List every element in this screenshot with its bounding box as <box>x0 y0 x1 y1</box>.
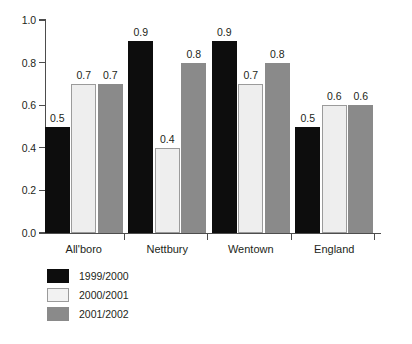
y-axis-tick <box>39 62 46 63</box>
bar-value-label: 0.7 <box>234 70 267 81</box>
bar-chart: 0.00.20.40.60.81.0 0.50.70.70.90.40.80.9… <box>0 0 412 344</box>
legend-label: 2001/2002 <box>79 308 129 320</box>
bar-value-label: 0.6 <box>344 91 377 102</box>
bar-value-label: 0.9 <box>124 27 157 38</box>
x-axis-separator-tick <box>207 234 208 240</box>
legend-label: 2000/2001 <box>79 289 129 301</box>
bar <box>348 105 373 233</box>
bar-value-label: 0.9 <box>208 27 241 38</box>
x-axis-separator-tick <box>374 234 375 240</box>
y-axis-tick <box>39 19 46 20</box>
bar <box>98 84 123 233</box>
bar <box>71 84 96 233</box>
x-axis-separator-tick <box>124 234 125 240</box>
y-axis-tick-label: 1.0 <box>6 15 36 26</box>
legend-label: 1999/2000 <box>79 270 129 282</box>
bar <box>155 148 180 233</box>
bar <box>181 63 206 233</box>
bar <box>212 41 237 233</box>
plot-area <box>46 20 380 233</box>
x-axis-separator-tick <box>291 234 292 240</box>
legend-swatch <box>47 288 69 302</box>
bar-value-label: 0.8 <box>177 49 210 60</box>
y-axis-tick <box>39 105 46 106</box>
legend-swatch <box>47 269 69 283</box>
y-axis-tick-label: 0.8 <box>6 58 36 69</box>
bar <box>265 63 290 233</box>
bar-value-label: 0.5 <box>41 113 74 124</box>
x-axis-line <box>45 233 381 234</box>
y-axis-tick-label: 0.4 <box>6 143 36 154</box>
bar-value-label: 0.4 <box>151 134 184 145</box>
legend-swatch <box>47 307 69 321</box>
bar <box>45 127 70 234</box>
bar <box>128 41 153 233</box>
bar-value-label: 0.5 <box>291 113 324 124</box>
bar <box>295 127 320 234</box>
x-axis-category-label: England <box>275 243 393 255</box>
bar-value-label: 0.8 <box>261 49 294 60</box>
bar <box>238 84 263 233</box>
y-axis-tick-label: 0.6 <box>6 100 36 111</box>
y-axis-tick-label: 0.0 <box>6 228 36 239</box>
y-axis-tick-label: 0.2 <box>6 185 36 196</box>
bar-value-label: 0.7 <box>94 70 127 81</box>
bar <box>322 105 347 233</box>
